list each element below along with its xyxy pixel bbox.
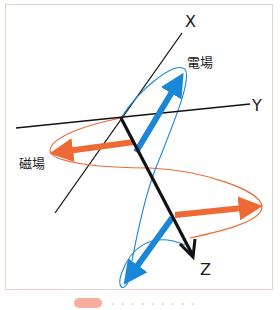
magnetic-field-label: 磁場 [19,157,45,170]
y-axis-label: Y [252,98,262,114]
y-axis-line [16,104,250,128]
x-axis-line [55,33,182,213]
magnetic-field-arrow-right [175,207,252,215]
magnetic-field-arrow-left [60,142,134,152]
z-axis-label: Z [200,262,211,278]
legend-caption: ・・・・・・・・・ [74,298,198,308]
legend-swatch [74,298,102,308]
z-axis-line [121,118,192,254]
legend-caption-text: ・・・・・・・・・ [108,297,198,310]
electric-field-arrow-down [130,218,172,276]
electric-field-arrow-up [136,82,178,152]
electric-field-label: 電場 [187,56,213,69]
magnetic-field-envelope [50,118,262,238]
x-axis-label: X [185,14,196,30]
